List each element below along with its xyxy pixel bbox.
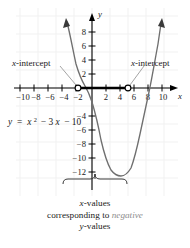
caption-negative-emphasis: negative xyxy=(112,210,143,220)
leader-line-right xyxy=(130,66,144,85)
y-axis-tick-labels: 2 4 6 8 −4 −6 −8 −10 −12 xyxy=(73,27,87,177)
x-intercept-label-right: x-intercept xyxy=(130,58,170,68)
y-tick-label: −10 xyxy=(73,153,86,163)
y-tick-label: 6 xyxy=(82,41,87,51)
x-intercept-marker-left xyxy=(75,85,81,91)
background-grid xyxy=(16,8,178,196)
x-intercept-label-left: x-intercept xyxy=(11,58,51,68)
x-tick-label: −2 xyxy=(73,92,82,102)
caption-line-3-rest: -values xyxy=(84,221,111,231)
equation-x2: x xyxy=(54,117,60,127)
figure-caption: x-values corresponding to negative y-val… xyxy=(0,198,190,233)
x-tick-label: 10 xyxy=(159,92,168,102)
equation-exponent: 2 xyxy=(34,116,37,123)
caption-line-2: corresponding to negative xyxy=(0,210,190,222)
caption-line-1: x-values xyxy=(0,198,190,210)
quadratic-graph-figure: −10 −8 −6 −4 −2 2 4 6 8 10 2 4 6 8 −4 −6… xyxy=(0,0,190,248)
caption-line-3: y-values xyxy=(0,221,190,233)
x-tick-label: −6 xyxy=(45,92,55,102)
y-tick-label: −8 xyxy=(77,139,86,149)
y-tick-label: 8 xyxy=(82,27,86,37)
y-tick-label: 2 xyxy=(82,69,86,79)
y-axis-label: y xyxy=(97,9,102,19)
y-tick-label: −12 xyxy=(73,167,86,177)
caption-line-2-prefix: corresponding to xyxy=(47,210,112,220)
x-tick-label: 4 xyxy=(118,92,123,102)
x-tick-label: 6 xyxy=(132,92,137,102)
equation-lhs: y xyxy=(7,117,13,127)
equation-x: x xyxy=(26,117,32,127)
caption-line-1-rest: -values xyxy=(84,198,111,208)
equation-mid: − 3 xyxy=(41,117,54,127)
equation-equals: = xyxy=(17,117,22,127)
x-intercept-marker-right xyxy=(125,85,131,91)
x-tick-label: −4 xyxy=(59,92,69,102)
x-axis-label: x xyxy=(177,91,182,101)
equation-label: y = x 2 − 3 x − 10 xyxy=(7,114,82,127)
x-tick-label: −10 xyxy=(16,92,29,102)
curve-direction-arrows xyxy=(63,18,165,28)
x-tick-label: 2 xyxy=(104,92,108,102)
y-tick-label: 4 xyxy=(82,55,87,65)
x-tick-label: −8 xyxy=(31,92,40,102)
equation-tail: − 10 xyxy=(64,117,81,127)
